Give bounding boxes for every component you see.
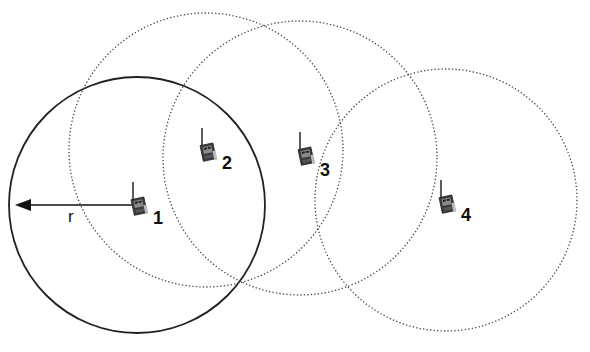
node-1-label: 1	[153, 208, 163, 228]
radio-transceiver-icon	[131, 182, 148, 216]
network-range-diagram: r 1 2 3 4	[0, 0, 590, 352]
radius-label: r	[68, 207, 74, 226]
node-4: 4	[439, 180, 471, 225]
node-1: 1	[131, 182, 163, 228]
radio-transceiver-icon	[439, 180, 456, 214]
node-4-label: 4	[461, 205, 471, 225]
node-2-label: 2	[222, 153, 232, 173]
node-3-label: 3	[320, 160, 330, 180]
node-2: 2	[200, 128, 232, 173]
radio-transceiver-icon	[298, 132, 315, 166]
node-3: 3	[298, 132, 330, 180]
radio-transceiver-icon	[200, 128, 217, 162]
